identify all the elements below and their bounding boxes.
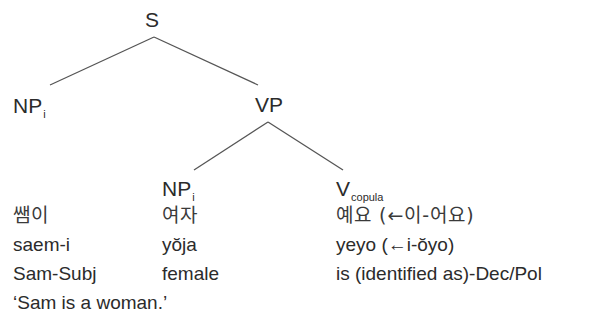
gloss-copula: is (identified as)-Dec/Pol bbox=[336, 263, 542, 285]
node-s-label: S bbox=[145, 8, 159, 31]
node-np-label: NP bbox=[162, 177, 191, 200]
node-np-predicate: NPi bbox=[162, 178, 195, 200]
node-np-index: i bbox=[192, 191, 194, 203]
romanization-noun: yŏja bbox=[162, 234, 197, 256]
branch-vp-np bbox=[194, 122, 268, 170]
korean-word-copula: 예요 (←이-어요) bbox=[336, 204, 475, 226]
node-v-copula: Vcopula bbox=[336, 178, 383, 200]
node-v-subscript: copula bbox=[351, 191, 383, 203]
node-v-label: V bbox=[336, 177, 350, 200]
korean-word-subject: 쌤이 bbox=[13, 204, 49, 226]
branch-vp-v bbox=[268, 122, 343, 170]
romanization-subject: saem-i bbox=[13, 234, 70, 256]
romanization-copula: yeyo (←i-ŏyo) bbox=[336, 234, 454, 256]
gloss-noun: female bbox=[162, 263, 219, 285]
free-translation: ‘Sam is a woman.’ bbox=[13, 292, 167, 314]
node-vp-label: VP bbox=[255, 93, 283, 116]
node-s: S bbox=[145, 9, 159, 31]
node-np-index: i bbox=[43, 108, 45, 120]
branch-s-np bbox=[50, 37, 154, 85]
branch-s-vp bbox=[154, 37, 258, 85]
node-np-label: NP bbox=[13, 94, 42, 117]
gloss-subject: Sam-Subj bbox=[13, 263, 96, 285]
node-np-subject: NPi bbox=[13, 95, 46, 117]
node-vp: VP bbox=[255, 94, 283, 116]
korean-word-noun: 여자 bbox=[162, 204, 198, 226]
